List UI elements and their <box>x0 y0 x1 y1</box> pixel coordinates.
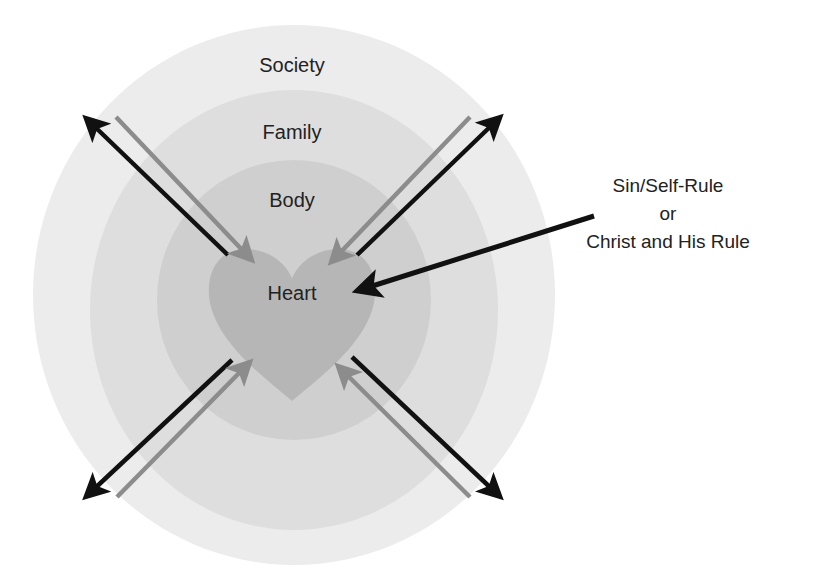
rule-callout: Sin/Self-Rule or Christ and His Rule <box>568 172 768 256</box>
family-label: Family <box>263 121 322 143</box>
callout-line-or: or <box>568 200 768 228</box>
heart-label: Heart <box>268 282 317 304</box>
callout-line-christ-rule: Christ and His Rule <box>568 228 768 256</box>
society-label: Society <box>259 54 325 76</box>
heart-rings-diagram: Society Family Body Heart <box>0 0 817 584</box>
body-label: Body <box>269 189 315 211</box>
callout-line-sin-self-rule: Sin/Self-Rule <box>568 172 768 200</box>
